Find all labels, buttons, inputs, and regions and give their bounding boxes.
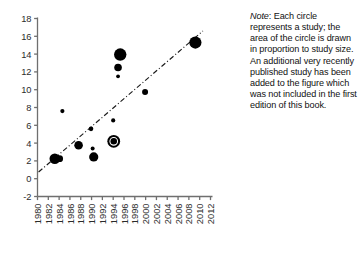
- figure-container: -202468101214161819801982198419861988199…: [0, 0, 360, 259]
- data-point: [142, 89, 148, 95]
- data-point: [189, 36, 201, 48]
- data-point: [114, 48, 126, 60]
- svg-text:2006: 2006: [174, 204, 184, 225]
- figure-note: Note: Each circle represents a study; th…: [250, 11, 358, 111]
- data-point: [56, 155, 63, 162]
- data-point: [60, 109, 64, 113]
- svg-text:16: 16: [21, 32, 31, 42]
- svg-text:18: 18: [21, 14, 31, 24]
- data-point: [91, 146, 95, 150]
- svg-text:10: 10: [21, 85, 31, 95]
- data-point: [89, 127, 94, 132]
- svg-text:2: 2: [26, 156, 31, 166]
- svg-text:1992: 1992: [98, 204, 108, 225]
- svg-text:1980: 1980: [33, 204, 43, 225]
- svg-text:1998: 1998: [130, 204, 140, 225]
- svg-text:1986: 1986: [66, 204, 76, 225]
- svg-text:1984: 1984: [55, 204, 65, 225]
- data-point: [89, 152, 98, 161]
- svg-text:6: 6: [26, 121, 31, 131]
- data-point: [74, 141, 83, 150]
- svg-text:2010: 2010: [195, 204, 205, 225]
- note-text: : Each circle represents a study; the ar…: [250, 11, 357, 110]
- svg-text:2008: 2008: [184, 204, 194, 225]
- data-point: [116, 74, 120, 78]
- svg-text:2000: 2000: [141, 204, 151, 225]
- svg-text:14: 14: [21, 50, 31, 60]
- svg-text:1996: 1996: [120, 204, 130, 225]
- svg-text:12: 12: [21, 67, 31, 77]
- svg-text:4: 4: [26, 139, 31, 149]
- data-point: [114, 64, 122, 72]
- svg-text:1994: 1994: [109, 204, 119, 225]
- note-label: Note: [250, 11, 269, 21]
- svg-text:8: 8: [26, 103, 31, 113]
- svg-text:2002: 2002: [152, 204, 162, 225]
- data-point-core: [111, 139, 117, 145]
- svg-text:1988: 1988: [76, 204, 86, 225]
- svg-text:1982: 1982: [44, 204, 54, 225]
- svg-text:-2: -2: [23, 192, 31, 202]
- svg-text:2012: 2012: [206, 204, 216, 225]
- svg-text:1990: 1990: [87, 204, 97, 225]
- data-point: [111, 118, 115, 122]
- svg-text:0: 0: [26, 174, 31, 184]
- svg-text:2004: 2004: [163, 204, 173, 225]
